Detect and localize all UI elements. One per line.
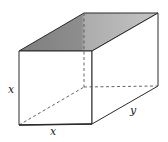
depth-label: y (129, 104, 137, 117)
height-label: x (8, 83, 15, 96)
width-label: x (50, 125, 57, 138)
box-svg: x x y (0, 0, 168, 142)
front-face (19, 51, 92, 125)
box-diagram: x x y (0, 0, 168, 142)
